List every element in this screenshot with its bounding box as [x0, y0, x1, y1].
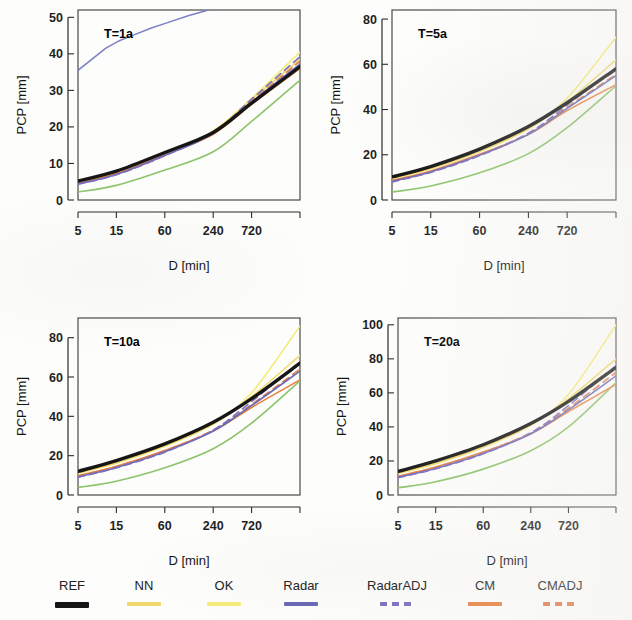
y-axis-tick-label: 20	[363, 148, 377, 162]
series-line-cmadj	[78, 61, 300, 183]
series-line-ref	[392, 69, 616, 177]
y-axis-tick-label: 40	[49, 410, 63, 424]
series-line-radar	[78, 64, 300, 184]
y-axis-tick-label: 30	[49, 84, 63, 98]
y-axis-title: PCP [mm]	[14, 76, 29, 135]
chart-panel-3: 02040608051560240720D [min]PCP [mm]T=10a	[0, 290, 316, 578]
legend-item-cm: CM	[460, 578, 510, 606]
chart-panel-1: 0102030405051560240720D [min]PCP [mm]T=1…	[0, 0, 316, 290]
series-line-nn	[78, 59, 300, 182]
legend-item-radar: Radar	[266, 578, 336, 606]
series-line-radaradj	[78, 57, 300, 185]
x-axis-tick-label: 5	[395, 519, 402, 533]
legend-label: RadarADJ	[352, 578, 442, 594]
series-line-ref	[78, 363, 300, 471]
chart-svg-4: 02040608010051560240720D [min]PCP [mm]T=…	[316, 290, 632, 578]
x-axis-tick-label: 60	[473, 224, 487, 238]
x-axis-tick-label: 15	[424, 224, 438, 238]
x-axis-tick-label: 5	[389, 224, 396, 238]
panel-title: T=10a	[104, 335, 141, 349]
x-axis-tick-label: 5	[75, 519, 82, 533]
series-group	[392, 37, 616, 192]
y-axis-tick-label: 60	[49, 371, 63, 385]
x-axis-tick-label: 240	[520, 519, 541, 533]
legend-item-radaradj: RadarADJ	[352, 578, 442, 606]
legend-color-swatch	[127, 602, 161, 606]
x-axis-tick-label: 15	[109, 519, 123, 533]
legend-color-swatch	[207, 602, 241, 606]
x-axis-tick-label: 5	[75, 224, 82, 238]
legend-items: REFNNOKRadarRadarADJCMCMADJ	[42, 578, 602, 620]
y-axis-tick-label: 20	[49, 120, 63, 134]
y-axis-title: PCP [mm]	[334, 377, 349, 436]
panel-title: T=1a	[104, 27, 134, 41]
legend-item-nn: NN	[114, 578, 174, 606]
series-group	[398, 325, 616, 488]
x-axis-tick-label: 240	[203, 224, 224, 238]
series-line-ref	[398, 367, 616, 471]
panel-title: T=20a	[424, 335, 461, 349]
y-axis-tick-label: 0	[56, 489, 63, 503]
x-axis-title: D [min]	[168, 553, 209, 568]
scan-artifact-line	[78, 6, 221, 70]
y-axis-tick-label: 80	[369, 352, 383, 366]
x-axis-tick-label: 720	[241, 224, 262, 238]
chart-svg-3: 02040608051560240720D [min]PCP [mm]T=10a	[0, 290, 316, 578]
y-axis-tick-label: 20	[369, 454, 383, 468]
legend-item-cmadj: CMADJ	[520, 578, 600, 606]
legend-color-swatch	[55, 602, 89, 608]
x-axis-tick-label: 15	[429, 519, 443, 533]
legend-label: NN	[114, 578, 174, 594]
series-line-ok	[392, 37, 616, 179]
legend-label: CMADJ	[520, 578, 600, 594]
x-axis-tick-label: 720	[241, 519, 262, 533]
y-axis-tick-label: 40	[363, 103, 377, 117]
x-axis-tick-label: 60	[158, 224, 172, 238]
legend-label: CM	[460, 578, 510, 594]
series-line-nn	[398, 359, 616, 473]
x-axis-tick-label: 720	[558, 519, 579, 533]
y-axis-tick-label: 20	[49, 449, 63, 463]
panel-title: T=5a	[418, 27, 448, 41]
y-axis-tick-label: 10	[49, 157, 63, 171]
series-group	[78, 326, 300, 488]
legend: REFNNOKRadarRadarADJCMCMADJ	[0, 578, 632, 620]
y-axis-tick-label: 0	[370, 194, 377, 208]
x-axis-tick-label: 240	[518, 224, 539, 238]
legend-label: REF	[42, 578, 102, 594]
legend-color-swatch	[380, 602, 414, 606]
series-line-ok	[78, 52, 300, 182]
y-axis-title: PCP [mm]	[328, 76, 343, 135]
legend-label: OK	[194, 578, 254, 594]
x-axis-tick-label: 60	[158, 519, 172, 533]
y-axis-tick-label: 40	[49, 47, 63, 61]
y-axis-tick-label: 0	[376, 489, 383, 503]
y-axis-tick-label: 80	[363, 13, 377, 27]
y-axis-tick-label: 80	[49, 331, 63, 345]
legend-label: Radar	[266, 578, 336, 594]
x-axis-tick-label: 60	[476, 519, 490, 533]
chart-svg-1: 0102030405051560240720D [min]PCP [mm]T=1…	[0, 0, 316, 290]
legend-color-swatch	[543, 602, 577, 606]
x-axis-title: D [min]	[486, 553, 527, 568]
y-axis-tick-label: 60	[363, 58, 377, 72]
panel-grid: 0102030405051560240720D [min]PCP [mm]T=1…	[0, 0, 632, 578]
x-axis-tick-label: 15	[109, 224, 123, 238]
series-line-nn	[392, 60, 616, 179]
chart-panel-2: 02040608051560240720D [min]PCP [mm]T=5a	[316, 0, 632, 290]
x-axis-title: D [min]	[483, 258, 524, 273]
y-axis-tick-label: 0	[56, 194, 63, 208]
y-axis-tick-label: 60	[369, 386, 383, 400]
y-axis-tick-label: 100	[362, 318, 383, 332]
y-axis-title: PCP [mm]	[14, 377, 29, 436]
x-axis-tick-label: 240	[203, 519, 224, 533]
chart-panel-4: 02040608010051560240720D [min]PCP [mm]T=…	[316, 290, 632, 578]
x-axis-tick-label: 720	[557, 224, 578, 238]
y-axis-tick-label: 50	[49, 11, 63, 25]
x-axis-title: D [min]	[168, 258, 209, 273]
y-axis-tick-label: 40	[369, 420, 383, 434]
chart-svg-2: 02040608051560240720D [min]PCP [mm]T=5a	[316, 0, 632, 290]
legend-item-ok: OK	[194, 578, 254, 606]
legend-item-ref: REF	[42, 578, 102, 608]
legend-color-swatch	[468, 602, 502, 606]
